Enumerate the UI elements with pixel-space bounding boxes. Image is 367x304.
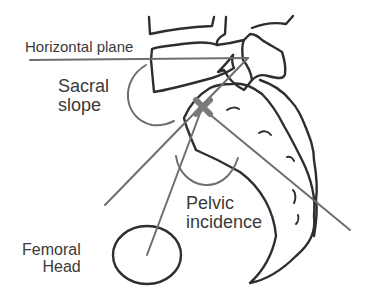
sacral-slope-label-line2: slope bbox=[58, 96, 109, 115]
sacral-slope-label-line1: Sacral bbox=[58, 77, 109, 96]
pelvic-incidence-label-line2: incidence bbox=[186, 213, 262, 232]
femoral-head-label-line2: Head bbox=[22, 259, 81, 276]
sacral-slope-arc bbox=[128, 65, 174, 125]
femoral-head-label-line1: Femoral bbox=[22, 242, 81, 259]
lumbar-vertebrae-outline bbox=[149, 16, 293, 92]
pelvic-incidence-label: Pelvic incidence bbox=[186, 194, 262, 232]
endplate-midpoint-marker bbox=[196, 100, 210, 114]
horizontal-plane-label: Horizontal plane bbox=[25, 39, 133, 55]
sacral-slope-label: Sacral slope bbox=[58, 77, 109, 115]
femoral-head-label: Femoral Head bbox=[22, 242, 81, 276]
pelvic-incidence-label-line1: Pelvic bbox=[186, 194, 262, 213]
pelvic-incidence-diagram: Horizontal plane Sacral slope Pelvic inc… bbox=[0, 0, 367, 304]
pelvic-incidence-arc bbox=[176, 156, 238, 185]
horizontal-plane-line bbox=[30, 58, 248, 60]
sacral-endplate-line bbox=[105, 58, 248, 205]
